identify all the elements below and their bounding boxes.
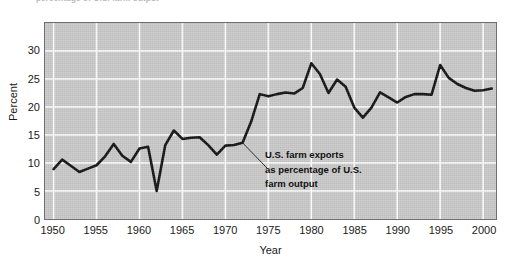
x-tick-label: 1995 [417, 224, 465, 236]
x-tick-label: 1970 [201, 224, 249, 236]
x-tick-label: 1985 [331, 224, 379, 236]
annotation-line: U.S. farm exports [265, 148, 415, 163]
x-tick-label: 1955 [72, 224, 120, 236]
y-tick-label: 30 [10, 44, 40, 56]
figure-container: percentage of U.S. farm output Percent 0… [0, 0, 518, 265]
annotation-line: farm output [265, 177, 415, 192]
clipped-caption-text: percentage of U.S. farm output [36, 0, 296, 3]
x-tick-label: 2000 [460, 224, 508, 236]
annotation-leader-line [243, 143, 268, 169]
y-tick-label: 5 [10, 186, 40, 198]
x-tick-label: 1975 [244, 224, 292, 236]
x-tick-label: 1950 [29, 224, 77, 236]
y-tick-label: 15 [10, 129, 40, 141]
x-tick-label: 1980 [287, 224, 335, 236]
y-tick-label: 25 [10, 73, 40, 85]
x-tick-label: 1960 [115, 224, 163, 236]
x-tick-label: 1965 [158, 224, 206, 236]
y-tick-label: 20 [10, 101, 40, 113]
y-tick-label: 10 [10, 157, 40, 169]
x-axis-tick-labels: 1950195519601965197019751980198519901995… [44, 224, 497, 240]
annotation-line: as percentage of U.S. [265, 163, 415, 178]
x-tick-label: 1990 [374, 224, 422, 236]
series-annotation: U.S. farm exportsas percentage of U.S.fa… [265, 148, 415, 192]
x-axis-title: Year [44, 244, 497, 256]
y-axis-tick-labels: 051015202530 [6, 22, 40, 220]
